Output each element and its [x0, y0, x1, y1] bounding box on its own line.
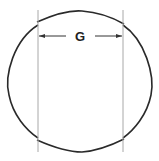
- arrowhead-left-icon: [39, 34, 45, 38]
- circle-left-arc: [8, 25, 38, 138]
- arrowhead-right-icon: [116, 34, 122, 38]
- dimension-label: G: [75, 30, 85, 43]
- top-arc: [37, 11, 124, 24]
- diagram-canvas: G: [0, 0, 159, 161]
- diagram-svg: [0, 0, 159, 161]
- circle-right-arc: [123, 25, 152, 138]
- bottom-arc: [37, 139, 124, 152]
